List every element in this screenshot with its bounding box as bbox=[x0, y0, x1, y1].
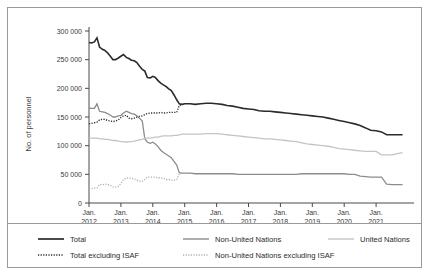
x-tick-label: Jan. bbox=[306, 209, 319, 216]
legend-svg: TotalNon-United NationsUnited NationsTot… bbox=[8, 224, 421, 267]
y-tick-label: 0 bbox=[78, 200, 82, 207]
legend-label-total-excluding-isaf: Total excluding ISAF bbox=[70, 251, 140, 260]
x-tick-label: Jan. bbox=[82, 209, 95, 216]
plot-area: 050 000100 000150 000200 000250 000300 0… bbox=[8, 8, 421, 223]
y-tick-label: 150 000 bbox=[57, 114, 82, 121]
x-tick-label: Jan. bbox=[274, 209, 287, 216]
series-lines bbox=[89, 38, 403, 189]
y-tick-label: 50 000 bbox=[61, 171, 83, 178]
x-tick-label: Jan. bbox=[210, 209, 223, 216]
series-line-non-united-nations bbox=[89, 104, 403, 185]
series-line-total-excluding-isaf bbox=[89, 104, 182, 123]
y-tick-label: 250 000 bbox=[57, 56, 82, 63]
y-axis: 050 000100 000150 000200 000250 000300 0… bbox=[57, 27, 89, 207]
x-tick-label: Jan. bbox=[178, 209, 191, 216]
series-line-united-nations bbox=[89, 134, 403, 155]
x-tick-label: Jan. bbox=[369, 209, 382, 216]
x-tick-label: Jan. bbox=[146, 209, 159, 216]
y-axis-title: No. of personnel bbox=[24, 96, 33, 151]
series-line-total bbox=[89, 38, 403, 135]
series-line-non-united-nations-excluding-isaf bbox=[89, 173, 182, 188]
x-tick-label: Jan. bbox=[338, 209, 351, 216]
y-tick-label: 200 000 bbox=[57, 85, 82, 92]
legend-label-non-united-nations: Non-United Nations bbox=[215, 235, 281, 244]
y-tick-label: 300 000 bbox=[57, 28, 82, 35]
legend-label-united-nations: United Nations bbox=[360, 235, 410, 244]
chart-legend: TotalNon-United NationsUnited NationsTot… bbox=[8, 224, 421, 267]
x-axis: Jan.2012Jan.2013Jan.2014Jan.2015Jan.2016… bbox=[81, 203, 414, 223]
line-chart-svg: 050 000100 000150 000200 000250 000300 0… bbox=[8, 8, 421, 223]
chart-figure: 050 000100 000150 000200 000250 000300 0… bbox=[7, 7, 422, 268]
legend-label-non-united-nations-excluding-isaf: Non-United Nations excluding ISAF bbox=[215, 251, 335, 260]
x-tick-label: Jan. bbox=[242, 209, 255, 216]
legend-label-total: Total bbox=[70, 235, 86, 244]
y-tick-label: 100 000 bbox=[57, 142, 82, 149]
x-tick-label: Jan. bbox=[114, 209, 127, 216]
